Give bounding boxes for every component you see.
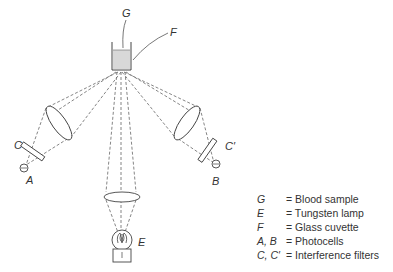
filter-c bbox=[21, 142, 45, 161]
legend-value: = Blood sample bbox=[286, 193, 359, 205]
label-c-prime: C′ bbox=[225, 141, 235, 152]
tungsten-lamp-icon bbox=[112, 230, 132, 262]
legend: G = Blood sample E = Tungsten lamp F = G… bbox=[257, 192, 379, 262]
legend-item-interference-filters: C, C′ = Interference filters bbox=[257, 248, 379, 262]
legend-item-photocells: A, B = Photocells bbox=[257, 234, 379, 248]
legend-key: E bbox=[257, 207, 286, 219]
legend-item-tungsten-lamp: E = Tungsten lamp bbox=[257, 206, 379, 220]
leader-line-f bbox=[133, 33, 168, 60]
legend-value: = Photocells bbox=[286, 235, 344, 247]
legend-item-glass-cuvette: F = Glass cuvette bbox=[257, 220, 379, 234]
label-f: F bbox=[170, 27, 177, 38]
legend-key: A, B bbox=[257, 235, 286, 247]
legend-key: F bbox=[257, 221, 286, 233]
legend-value: = Interference filters bbox=[286, 249, 379, 261]
blood-sample bbox=[113, 50, 130, 69]
legend-key: C, C′ bbox=[257, 249, 286, 261]
legend-item-blood-sample: G = Blood sample bbox=[257, 192, 379, 206]
label-a: A bbox=[26, 175, 33, 186]
legend-value: = Glass cuvette bbox=[286, 221, 359, 233]
bottom-lens bbox=[104, 192, 140, 202]
label-e: E bbox=[138, 237, 145, 248]
glass-cuvette bbox=[112, 42, 131, 70]
left-lens bbox=[42, 103, 76, 144]
leader-line-g bbox=[123, 20, 126, 48]
legend-value: = Tungsten lamp bbox=[286, 207, 364, 219]
label-c: C bbox=[14, 140, 22, 151]
label-g: G bbox=[122, 8, 131, 19]
label-b: B bbox=[212, 176, 219, 187]
legend-key: G bbox=[257, 193, 286, 205]
light-paths bbox=[26, 72, 214, 238]
